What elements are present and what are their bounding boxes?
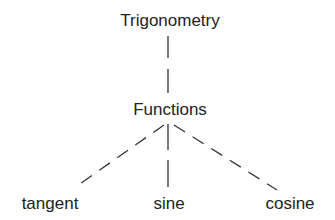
- edge-functions-to-tangent: [74, 125, 164, 188]
- node-sine: sine: [153, 195, 184, 212]
- edge-functions-to-cosine: [174, 125, 277, 190]
- node-cosine: cosine: [265, 195, 314, 212]
- node-functions: Functions: [133, 101, 207, 118]
- node-trigonometry: Trigonometry: [120, 12, 220, 29]
- node-tangent: tangent: [22, 195, 79, 212]
